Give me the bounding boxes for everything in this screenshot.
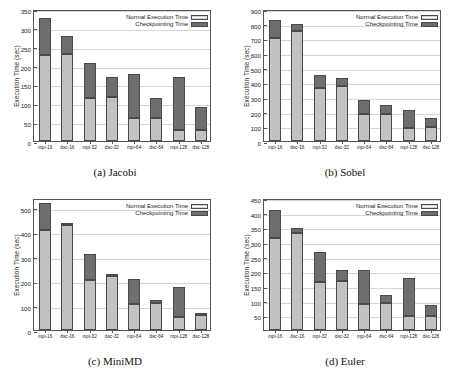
bar-mpi-32 [84,63,96,141]
chart-legend: Normal Execution TimeCheckpointing Time [356,203,438,216]
x-axis-tick-label: dsc-32 [335,334,349,339]
axis-frame-jacobi: 050100150200250300350mpi-16dsc-16mpi-32d… [33,10,211,142]
chart-legend: Normal Execution TimeCheckpointing Time [126,203,208,216]
caption-euler: (d) Euler [230,355,460,367]
bar-dsc-32 [336,270,348,330]
bar-mpi-128 [173,77,185,141]
y-axis-tick-label: 400 [251,211,264,218]
y-axis-tick-label: 900 [251,8,264,15]
legend-swatch-ckpt [191,22,208,27]
x-axis-tick-label: mpi-16 [268,145,282,150]
bar-segment-checkpointing [336,270,348,280]
bar-segment-normal [106,97,118,141]
gridline [34,30,210,31]
bar-segment-checkpointing [84,254,96,280]
bar-segment-normal [61,54,73,141]
bar-segment-checkpointing [403,278,415,316]
y-axis-label: Execution Time (sec) [243,36,250,116]
legend-item-ckpt: Checkpointing Time [135,21,208,27]
bar-dsc-128 [195,313,207,330]
bar-segment-normal [128,304,140,330]
y-axis-tick-label: 700 [251,37,264,44]
x-axis-tick-label: mpi-32 [82,334,96,339]
bar-dsc-64 [150,300,162,330]
x-axis-tick-label: dsc-64 [149,334,163,339]
axis-frame-sobel: 0100200300400500600700800900mpi-16dsc-16… [263,10,441,142]
plot-area-minimd: Execution Time (sec)0100200300400500mpi-… [0,189,230,355]
bar-segment-checkpointing [150,300,162,302]
legend-label: Checkpointing Time [365,210,418,216]
bar-segment-normal [195,130,207,141]
y-axis-tick-label: 300 [251,96,264,103]
axis-frame-euler: 50100150200250300350400450mpi-16dsc-16mp… [263,199,441,331]
bar-mpi-64 [128,279,140,330]
bar-segment-normal [314,282,326,330]
bar-mpi-32 [314,75,326,141]
y-axis-tick-label: 350 [21,8,34,15]
x-axis-tick-label: mpi-16 [38,145,52,150]
legend-item-normal: Normal Execution Time [126,14,208,20]
bar-segment-checkpointing [403,110,415,128]
legend-label: Normal Execution Time [356,203,418,209]
legend-label: Checkpointing Time [365,21,418,27]
legend-label: Normal Execution Time [126,203,188,209]
bar-mpi-16 [39,18,51,141]
bar-mpi-32 [314,252,326,330]
bar-dsc-32 [106,77,118,141]
bar-segment-normal [61,225,73,330]
y-axis-tick-label: 0 [28,329,34,336]
y-axis-tick-label: 200 [21,280,34,287]
figure-grid: Execution Time (sec)05010015020025030035… [0,0,460,379]
y-axis-tick-label: 0 [28,140,34,147]
gridline [264,11,440,12]
y-axis-tick-label: 200 [21,64,34,71]
x-axis-tick-label: mpi-32 [312,145,326,150]
chart-legend: Normal Execution TimeCheckpointing Time [126,14,208,27]
legend-swatch-normal [191,204,208,209]
x-axis-tick-label: dsc-32 [335,145,349,150]
legend-item-normal: Normal Execution Time [356,203,438,209]
y-axis-tick-label: 200 [251,270,264,277]
bar-segment-checkpointing [39,18,51,55]
caption-sobel: (b) Sobel [230,166,460,178]
x-axis-tick-label: mpi-16 [38,334,52,339]
bar-segment-checkpointing [61,223,73,225]
bar-mpi-32 [84,254,96,330]
caption-jacobi: (a) Jacobi [0,166,230,178]
bar-dsc-16 [61,223,73,330]
bar-dsc-64 [380,105,392,141]
bar-segment-normal [84,98,96,141]
bar-segment-checkpointing [106,274,118,276]
bar-segment-normal [314,88,326,141]
bar-segment-normal [358,114,370,141]
bar-segment-checkpointing [61,36,73,54]
bar-segment-normal [358,304,370,330]
bar-segment-normal [336,86,348,141]
bar-segment-normal [150,118,162,141]
y-axis-tick-label: 500 [21,206,34,213]
bar-segment-normal [380,114,392,141]
legend-swatch-ckpt [421,22,438,27]
bar-segment-checkpointing [106,77,118,97]
bar-segment-checkpointing [269,210,281,237]
bar-dsc-128 [195,107,207,141]
bar-segment-normal [425,316,437,330]
bar-segment-normal [269,38,281,141]
y-axis-tick-label: 800 [251,22,264,29]
bar-segment-checkpointing [150,98,162,119]
legend-swatch-normal [421,15,438,20]
y-axis-tick-label: 400 [21,231,34,238]
x-axis-tick-label: dsc-16 [60,334,74,339]
x-axis-tick-label: dsc-128 [423,145,440,150]
bar-mpi-64 [358,270,370,330]
legend-item-ckpt: Checkpointing Time [365,210,438,216]
gridline [34,11,210,12]
y-axis-tick-label: 100 [21,102,34,109]
legend-item-ckpt: Checkpointing Time [365,21,438,27]
x-axis-tick-label: mpi-128 [170,334,187,339]
y-axis-label: Execution Time (sec) [243,225,250,305]
y-axis-tick-label: 600 [251,52,264,59]
y-axis-tick-label: 150 [251,285,264,292]
y-axis-tick-label: 350 [251,226,264,233]
bar-segment-checkpointing [425,305,437,315]
